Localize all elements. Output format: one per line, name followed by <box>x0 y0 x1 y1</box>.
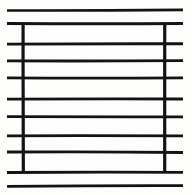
horizontal-rule <box>7 10 183 11</box>
horizontal-rules-group <box>7 10 183 186</box>
horizontal-rule <box>7 152 183 153</box>
sketch-canvas: Ruled Box Sketch <box>0 0 192 195</box>
ruled-box-drawing: Ruled Box Sketch <box>0 0 192 195</box>
horizontal-rule <box>7 186 183 187</box>
